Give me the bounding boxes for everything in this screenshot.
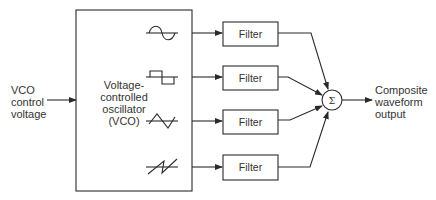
output-label: Composite waveform output <box>375 84 428 120</box>
filter-label-2: Filter <box>223 72 278 84</box>
sine-wave-icon <box>146 26 178 40</box>
filter-to-sum-arrow-2 <box>278 77 322 95</box>
filter-label-1: Filter <box>223 28 278 40</box>
input-label: VCO control voltage <box>11 84 46 120</box>
output-label-line: output <box>375 108 428 120</box>
vco-label-line: oscillator <box>78 103 170 115</box>
input-label-line: VCO <box>11 84 46 96</box>
output-label-line: Composite <box>375 84 428 96</box>
sigma-icon: Σ <box>329 96 335 106</box>
vco-label: Voltage- controlled oscillator (VCO) <box>78 79 170 127</box>
filter-to-sum-arrow-3 <box>278 106 322 120</box>
filter-label-4: Filter <box>223 161 278 173</box>
diagram-canvas: Σ <box>0 0 436 200</box>
input-label-line: voltage <box>11 108 46 120</box>
vco-label-line: controlled <box>78 91 170 103</box>
sawtooth-wave-icon <box>146 159 178 174</box>
filter-label-3: Filter <box>223 116 278 128</box>
vco-label-line: Voltage- <box>78 79 170 91</box>
filter-to-sum-arrow-1 <box>278 33 328 89</box>
vco-label-line: (VCO) <box>78 115 170 127</box>
output-label-line: waveform <box>375 96 428 108</box>
input-label-line: control <box>11 96 46 108</box>
